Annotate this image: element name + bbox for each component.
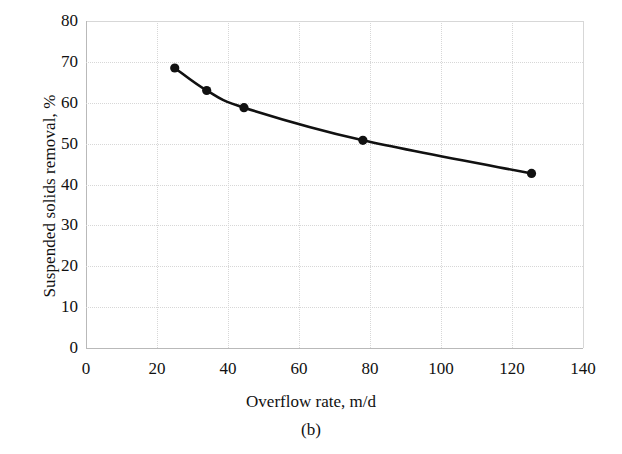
- plot-area: [86, 21, 583, 348]
- x-tick-label: 60: [276, 360, 322, 377]
- figure-caption: (b): [0, 420, 622, 440]
- x-axis-title: Overflow rate, m/d: [0, 392, 622, 412]
- y-axis-title: Suspended solids removal, %: [40, 16, 60, 376]
- data-point-marker: [239, 103, 248, 112]
- y-tick-label: 30: [38, 216, 78, 233]
- data-point-marker: [170, 63, 179, 72]
- x-tick-label: 40: [205, 360, 251, 377]
- y-tick-label: 10: [38, 298, 78, 315]
- data-point-marker: [527, 169, 536, 178]
- data-series-line: [86, 21, 583, 348]
- x-tick-label: 80: [347, 360, 393, 377]
- y-tick-label: 80: [38, 12, 78, 29]
- x-tick-label: 120: [489, 360, 535, 377]
- data-point-marker: [358, 136, 367, 145]
- data-point-marker: [202, 86, 211, 95]
- axis-right-spine: [583, 21, 584, 348]
- y-tick-label: 70: [38, 53, 78, 70]
- x-tick-label: 100: [418, 360, 464, 377]
- axis-bottom-spine: [86, 348, 583, 349]
- y-tick-label: 40: [38, 176, 78, 193]
- series-path: [175, 68, 532, 173]
- x-tick-label: 0: [63, 360, 109, 377]
- x-tick-label: 140: [560, 360, 606, 377]
- x-tick-label: 20: [134, 360, 180, 377]
- y-tick-label: 0: [38, 339, 78, 356]
- y-tick-label: 20: [38, 257, 78, 274]
- y-tick-label: 50: [38, 135, 78, 152]
- figure-panel-b: Suspended solids removal, % 010203040506…: [0, 0, 622, 454]
- y-tick-label: 60: [38, 94, 78, 111]
